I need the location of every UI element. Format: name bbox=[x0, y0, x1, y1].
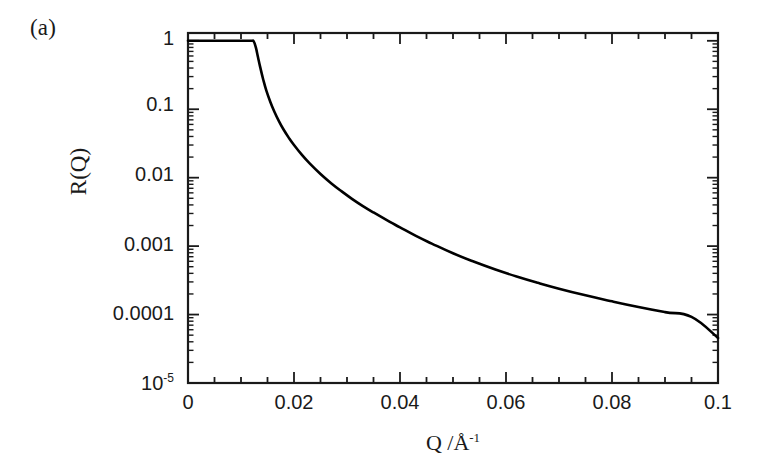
x-axis-ticks-top bbox=[188, 33, 718, 44]
reflectivity-curve bbox=[188, 41, 718, 338]
figure-root: (a) R(Q) Q /Å-1 1 0.1 0.01 0.001 0.0001 … bbox=[0, 0, 762, 472]
y-axis-ticks-left bbox=[188, 41, 199, 383]
axis-frame bbox=[188, 33, 718, 383]
plot-area bbox=[0, 0, 762, 472]
x-axis-ticks-bottom bbox=[188, 372, 718, 383]
